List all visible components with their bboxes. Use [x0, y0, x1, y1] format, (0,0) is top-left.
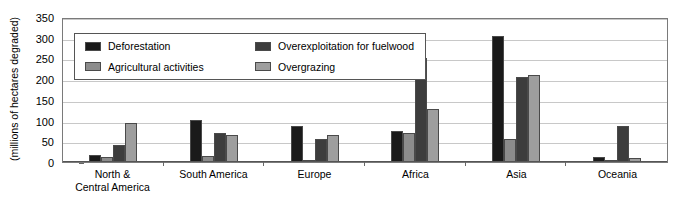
bar [226, 135, 238, 162]
y-tick-label: 150 [22, 95, 54, 107]
bar [528, 75, 540, 162]
x-axis-label: Oceania [567, 168, 668, 193]
x-tick-mark [465, 162, 466, 166]
bar [617, 126, 629, 162]
x-axis-label-line: Asia [466, 168, 567, 181]
bar [492, 36, 504, 162]
x-axis-label: Africa [365, 168, 466, 193]
legend-item: Overexploitation for fuelwood [255, 40, 425, 52]
bar-group [466, 19, 567, 162]
bar [403, 133, 415, 162]
bar [113, 145, 125, 162]
x-axis-label-line: Central America [62, 181, 163, 194]
bar [516, 77, 528, 162]
y-tick-label: 100 [22, 116, 54, 128]
bar-chart: (millions of hectares degraded) 35030025… [0, 0, 676, 206]
x-axis-label: North &Central America [62, 168, 163, 193]
x-axis-label-line: Oceania [567, 168, 668, 181]
bar-group [566, 19, 667, 162]
legend-swatch-icon [255, 42, 271, 51]
legend-swatch-icon [85, 42, 101, 51]
bar [504, 139, 516, 162]
y-axis-ticks: 350300250200150100500 [22, 18, 54, 163]
x-tick-mark [565, 162, 566, 166]
x-axis-label-line: Europe [264, 168, 365, 181]
bar [291, 126, 303, 162]
y-axis-title: (millions of hectares degraded) [8, 9, 20, 169]
y-tick-label: 0 [22, 157, 54, 169]
x-axis-label: South America [163, 168, 264, 193]
legend-label: Agricultural activities [108, 61, 204, 73]
x-axis-label-line: South America [163, 168, 264, 181]
y-tick-label: 350 [22, 12, 54, 24]
y-tick-label: 50 [22, 136, 54, 148]
legend-item: Overgrazing [255, 61, 425, 73]
x-axis-labels: North &Central AmericaSouth AmericaEurop… [62, 168, 668, 193]
x-tick-mark [263, 162, 264, 166]
y-tick-label: 200 [22, 74, 54, 86]
x-axis-label-line: North & [62, 168, 163, 181]
bar [125, 123, 137, 162]
chart-legend: DeforestationOverexploitation for fuelwo… [74, 33, 426, 80]
y-tick-label: 250 [22, 53, 54, 65]
bar [214, 133, 226, 162]
legend-label: Deforestation [108, 40, 170, 52]
x-axis-label: Asia [466, 168, 567, 193]
y-tick-label: 300 [22, 33, 54, 45]
legend-item: Agricultural activities [85, 61, 255, 73]
x-axis-line [63, 161, 667, 162]
bar [391, 131, 403, 162]
x-axis-label: Europe [264, 168, 365, 193]
legend-swatch-icon [85, 62, 101, 71]
legend-label: Overexploitation for fuelwood [278, 40, 414, 52]
bar [190, 120, 202, 162]
x-tick-mark [163, 162, 164, 166]
x-axis-label-line: Africa [365, 168, 466, 181]
bar [315, 139, 327, 162]
x-tick-mark [364, 162, 365, 166]
legend-swatch-icon [255, 62, 271, 71]
bar [327, 135, 339, 162]
y-tick-mark [79, 163, 84, 164]
legend-item: Deforestation [85, 40, 255, 52]
legend-label: Overgrazing [278, 61, 335, 73]
bar [427, 109, 439, 162]
